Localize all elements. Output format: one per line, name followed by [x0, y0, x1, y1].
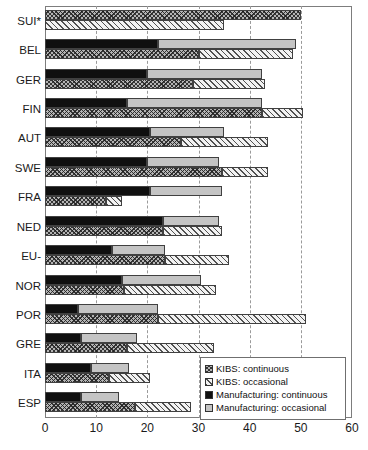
segment-manufacturing-continuous — [45, 157, 147, 167]
segment-kibs-continuous — [45, 314, 158, 324]
segment-kibs-continuous — [45, 343, 127, 353]
y-axis-label-fra: FRA — [0, 191, 41, 203]
segment-manufacturing-occasional — [147, 157, 219, 167]
segment-kibs-continuous — [45, 285, 124, 295]
segment-kibs-occasional — [262, 108, 303, 118]
segment-kibs-occasional — [109, 373, 150, 383]
x-axis-tick-30: 30 — [179, 421, 219, 435]
segment-kibs-continuous — [45, 108, 262, 118]
bar-group — [45, 271, 352, 300]
segment-manufacturing-continuous — [45, 39, 158, 49]
y-axis-label-aut: AUT — [0, 132, 41, 144]
y-axis-label-esp: ESP — [0, 397, 41, 409]
segment-kibs-continuous — [45, 402, 135, 412]
bar-group — [45, 124, 352, 153]
segment-kibs-continuous — [45, 226, 163, 236]
segment-kibs-occasional — [165, 255, 229, 265]
segment-kibs-occasional — [45, 20, 224, 30]
x-axis-tick-50: 50 — [281, 421, 321, 435]
segment-manufacturing-continuous — [45, 98, 127, 108]
segment-manufacturing-occasional — [112, 245, 166, 255]
y-axis-label-swe: SWE — [0, 162, 41, 174]
segment-manufacturing-continuous — [45, 127, 150, 137]
bar-group — [45, 153, 352, 182]
segment-manufacturing-occasional — [150, 127, 224, 137]
x-axis-tick-40: 40 — [230, 421, 270, 435]
segment-manufacturing-occasional — [122, 275, 201, 285]
segment-manufacturing-continuous — [45, 392, 81, 402]
segment-kibs-continuous — [45, 49, 199, 59]
bar-group — [45, 300, 352, 329]
legend-swatch-icon — [205, 391, 213, 399]
segment-manufacturing-occasional — [127, 98, 263, 108]
x-axis-tick-60: 60 — [332, 421, 368, 435]
legend-label: Manufacturing: continuous — [216, 390, 327, 400]
legend-label: KIBS: continuous — [216, 364, 289, 374]
bar-group — [45, 212, 352, 241]
segment-manufacturing-occasional — [81, 333, 137, 343]
bar-group — [45, 241, 352, 270]
y-axis-label-ita: ITA — [0, 368, 41, 380]
bar-group — [45, 65, 352, 94]
y-axis-label-ned: NED — [0, 221, 41, 233]
segment-manufacturing-continuous — [45, 363, 91, 373]
segment-manufacturing-occasional — [147, 69, 262, 79]
x-axis-tick-0: 0 — [25, 421, 65, 435]
legend-label: KIBS: occasional — [216, 377, 288, 387]
legend-swatch-icon — [205, 365, 213, 373]
y-axis-label-fin: FIN — [0, 103, 41, 115]
segment-manufacturing-continuous — [45, 69, 147, 79]
segment-kibs-occasional — [199, 49, 294, 59]
y-axis-label-sui: SUI* — [0, 15, 41, 27]
x-axis-tick-20: 20 — [127, 421, 167, 435]
bar-group — [45, 94, 352, 123]
segment-manufacturing-occasional — [81, 392, 119, 402]
bar-group — [45, 35, 352, 64]
segment-kibs-occasional — [127, 343, 214, 353]
legend-item: KIBS: occasional — [205, 376, 341, 388]
segment-kibs-occasional — [181, 137, 268, 147]
chart-legend: KIBS: continuousKIBS: occasionalManufact… — [200, 357, 346, 420]
legend-swatch-icon — [205, 404, 213, 412]
segment-manufacturing-occasional — [150, 186, 222, 196]
segment-manufacturing-continuous — [45, 245, 112, 255]
y-axis-label-ger: GER — [0, 74, 41, 86]
legend-item: Manufacturing: occasional — [205, 402, 341, 414]
legend-item: KIBS: continuous — [205, 363, 341, 375]
bar-chart: SUI*BELGERFINAUTSWEFRANEDEU-NORPORGREITA… — [0, 0, 368, 450]
segment-kibs-continuous — [45, 10, 301, 20]
segment-kibs-continuous — [45, 255, 165, 265]
segment-kibs-occasional — [124, 285, 216, 295]
segment-manufacturing-continuous — [45, 186, 150, 196]
segment-kibs-occasional — [135, 402, 191, 412]
y-axis-label-nor: NOR — [0, 280, 41, 292]
segment-kibs-occasional — [163, 226, 222, 236]
legend-label: Manufacturing: occasional — [216, 403, 326, 413]
legend-swatch-icon — [205, 378, 213, 386]
segment-kibs-continuous — [45, 196, 106, 206]
segment-kibs-occasional — [193, 79, 265, 89]
y-axis-labels: SUI*BELGERFINAUTSWEFRANEDEU-NORPORGREITA… — [0, 6, 41, 418]
segment-kibs-continuous — [45, 137, 181, 147]
x-axis-tick-10: 10 — [76, 421, 116, 435]
y-axis-label-gre: GRE — [0, 338, 41, 350]
segment-manufacturing-continuous — [45, 333, 81, 343]
segment-kibs-continuous — [45, 79, 193, 89]
segment-manufacturing-continuous — [45, 216, 163, 226]
segment-manufacturing-occasional — [78, 304, 157, 314]
y-axis-label-por: POR — [0, 309, 41, 321]
segment-manufacturing-occasional — [91, 363, 129, 373]
segment-manufacturing-continuous — [45, 275, 122, 285]
bar-group — [45, 183, 352, 212]
segment-manufacturing-occasional — [163, 216, 219, 226]
segment-kibs-occasional — [158, 314, 306, 324]
segment-kibs-continuous — [45, 373, 109, 383]
y-axis-label-bel: BEL — [0, 44, 41, 56]
segment-kibs-occasional — [106, 196, 121, 206]
segment-kibs-occasional — [222, 167, 268, 177]
segment-manufacturing-continuous — [45, 304, 78, 314]
y-axis-label-eu: EU- — [0, 250, 41, 262]
bar-group — [45, 6, 352, 35]
segment-manufacturing-occasional — [158, 39, 296, 49]
bar-group — [45, 330, 352, 359]
